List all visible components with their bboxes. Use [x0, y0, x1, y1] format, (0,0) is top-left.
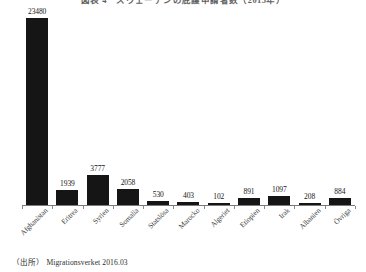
bar-value-label: 2058	[121, 178, 136, 187]
bar-slot: 208	[294, 10, 324, 205]
bar	[56, 190, 78, 205]
bar	[87, 175, 109, 205]
bar-value-label: 891	[244, 187, 255, 196]
bar	[147, 201, 169, 205]
bar	[268, 196, 290, 205]
bar-value-label: 1939	[60, 179, 75, 188]
chart-plot-area: 234801939377720585304031028911097208884	[22, 10, 355, 206]
bar-slot: 1097	[264, 10, 294, 205]
bar	[299, 203, 321, 205]
bar-value-label: 530	[153, 190, 164, 199]
bar	[117, 189, 139, 205]
bar-slot: 403	[173, 10, 203, 205]
source-label: （出所）	[12, 258, 44, 267]
x-axis-category-labels: AfghanistanEritreaSyrienSomaliaStatslösa…	[22, 206, 355, 252]
bar-slot: 530	[143, 10, 173, 205]
chart-title-strip: 図表 4 スウェーデンの庇護申請者数（2015年）	[0, 0, 366, 5]
bar	[177, 202, 199, 205]
bar-value-label: 102	[213, 192, 224, 201]
bar-value-label: 884	[334, 187, 345, 196]
bar	[208, 203, 230, 205]
bar-value-label: 3777	[90, 164, 105, 173]
x-axis-tick	[355, 206, 356, 209]
bar-slot: 23480	[22, 10, 52, 205]
bar-value-label: 208	[304, 192, 315, 201]
bar-slot: 3777	[83, 10, 113, 205]
bar-slot: 2058	[113, 10, 143, 205]
bar-value-label: 1097	[272, 185, 287, 194]
bar-slot: 1939	[52, 10, 82, 205]
source-text: Migrationsverket 2016.03	[46, 258, 127, 267]
bar	[329, 198, 351, 205]
bar-value-label: 403	[183, 191, 194, 200]
bar	[26, 18, 48, 205]
chart-title: 図表 4 スウェーデンの庇護申請者数（2015年）	[0, 0, 366, 5]
bar-slot: 891	[234, 10, 264, 205]
bar-slot: 884	[325, 10, 355, 205]
source-note: （出所）Migrationsverket 2016.03	[12, 256, 128, 267]
bar-value-label: 23480	[28, 7, 46, 16]
bar	[238, 198, 260, 205]
bar-slot: 102	[204, 10, 234, 205]
